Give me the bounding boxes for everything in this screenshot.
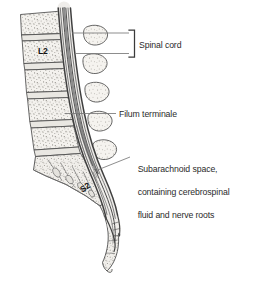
label-subarachnoid-line-3: fluid and nerve roots — [138, 209, 215, 220]
label-subarachnoid-line-2: containing cerebrospinal — [138, 186, 230, 197]
label-spinal-cord: Spinal cord — [139, 39, 181, 51]
vertebral-body-l1 — [21, 11, 64, 35]
vertebra-label-l2: L2 — [38, 46, 48, 56]
vertebral-body-l4 — [28, 98, 73, 122]
spinous-process-4 — [88, 111, 112, 131]
spine-illustration — [0, 0, 254, 284]
label-filum-terminale: Filum terminale — [119, 108, 177, 120]
spinous-process-1 — [84, 25, 108, 45]
label-subarachnoid-space: Subarachnoid space, containing cerebrosp… — [133, 151, 229, 221]
vertebral-body-l5 — [31, 126, 79, 150]
spinous-process-2 — [83, 54, 107, 74]
label-subarachnoid-line-1: Subarachnoid space, — [138, 163, 218, 174]
spinous-process-3 — [85, 82, 109, 102]
vertebral-body-l3 — [25, 69, 69, 93]
